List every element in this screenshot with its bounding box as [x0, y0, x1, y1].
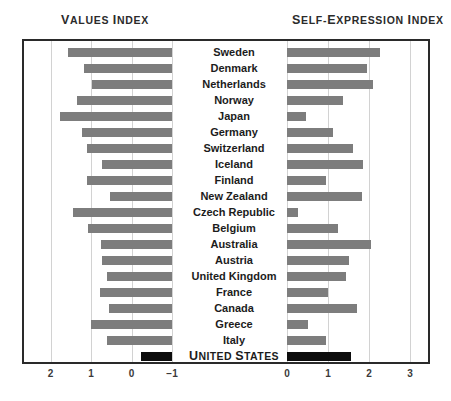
- country-label: Italy: [179, 332, 289, 349]
- chart-row: New Zealand: [24, 188, 428, 205]
- chart-row: Iceland: [24, 156, 428, 173]
- country-label: Iceland: [179, 156, 289, 173]
- bar-values-index: [68, 48, 172, 57]
- bar-values-index-highlight: [141, 352, 172, 361]
- bar-self-expression: [287, 192, 362, 201]
- chart-row: Belgium: [24, 220, 428, 237]
- bar-self-expression: [287, 336, 326, 345]
- country-label: Finland: [179, 172, 289, 189]
- bar-values-index: [91, 320, 172, 329]
- axis-tick-label: 1: [88, 368, 94, 379]
- chart-row: Japan: [24, 108, 428, 125]
- bar-self-expression: [287, 272, 346, 281]
- country-label: Netherlands: [179, 76, 289, 93]
- bar-self-expression: [287, 224, 338, 233]
- axis-tick-label: −1: [166, 368, 177, 379]
- bar-self-expression: [287, 256, 349, 265]
- bar-self-expression: [287, 160, 363, 169]
- country-label: Japan: [179, 108, 289, 125]
- bar-self-expression: [287, 176, 326, 185]
- chart-row: Netherlands: [24, 76, 428, 93]
- chart-row: Greece: [24, 316, 428, 333]
- self-expression-index-header: SELF-EXPRESSION INDEX: [292, 13, 444, 27]
- chart-canvas: VALUES INDEX SELF-EXPRESSION INDEX Swede…: [0, 0, 451, 401]
- country-label: Germany: [179, 124, 289, 141]
- chart-row: Austria: [24, 252, 428, 269]
- country-label: New Zealand: [179, 188, 289, 205]
- country-label: Canada: [179, 300, 289, 317]
- values-index-header: VALUES INDEX: [61, 13, 149, 27]
- bar-values-index: [92, 80, 172, 89]
- axis-tick-label: 2: [48, 368, 54, 379]
- chart-row: Finland: [24, 172, 428, 189]
- country-label: Sweden: [179, 44, 289, 61]
- chart-row: Switzerland: [24, 140, 428, 157]
- bar-self-expression: [287, 288, 328, 297]
- bar-values-index: [73, 208, 172, 217]
- bar-values-index: [107, 336, 172, 345]
- axis-tick-label: 0: [284, 368, 290, 379]
- country-label: Switzerland: [179, 140, 289, 157]
- bar-values-index: [107, 272, 172, 281]
- chart-row: Denmark: [24, 60, 428, 77]
- country-label: Greece: [179, 316, 289, 333]
- country-label: Norway: [179, 92, 289, 109]
- chart-row: Italy: [24, 332, 428, 349]
- axis-tick-label: 1: [325, 368, 331, 379]
- chart-row: Australia: [24, 236, 428, 253]
- bar-self-expression: [287, 96, 343, 105]
- country-label: Belgium: [179, 220, 289, 237]
- country-label: France: [179, 284, 289, 301]
- axis-tick-label: 3: [407, 368, 413, 379]
- bar-self-expression: [287, 80, 373, 89]
- chart-row: Norway: [24, 92, 428, 109]
- bar-values-index: [88, 224, 172, 233]
- plot-frame: SwedenDenmarkNetherlandsNorwayJapanGerma…: [22, 39, 430, 364]
- bar-values-index: [87, 176, 172, 185]
- chart-row: Canada: [24, 300, 428, 317]
- bar-self-expression: [287, 64, 367, 73]
- bar-values-index: [100, 288, 172, 297]
- bar-values-index: [60, 112, 172, 121]
- chart-row: Germany: [24, 124, 428, 141]
- axis-tick-label: 2: [366, 368, 372, 379]
- chart-row: Sweden: [24, 44, 428, 61]
- bar-values-index: [109, 304, 172, 313]
- country-label: Czech Republic: [179, 204, 289, 221]
- bar-self-expression: [287, 304, 357, 313]
- bar-values-index: [82, 128, 172, 137]
- bar-self-expression: [287, 48, 380, 57]
- chart-row: UNITED STATES: [24, 348, 428, 365]
- bar-self-expression: [287, 112, 306, 121]
- chart-row: United Kingdom: [24, 268, 428, 285]
- country-label: Austria: [179, 252, 289, 269]
- axis-tick-label: 0: [129, 368, 135, 379]
- bar-values-index: [102, 256, 172, 265]
- bar-self-expression: [287, 128, 333, 137]
- country-label: United Kingdom: [179, 268, 289, 285]
- bar-values-index: [77, 96, 172, 105]
- bar-self-expression: [287, 240, 371, 249]
- bar-values-index: [110, 192, 172, 201]
- bar-values-index: [87, 144, 172, 153]
- bar-values-index: [84, 64, 172, 73]
- chart-row: Czech Republic: [24, 204, 428, 221]
- bar-values-index: [102, 160, 172, 169]
- plot-area: SwedenDenmarkNetherlandsNorwayJapanGerma…: [24, 41, 428, 362]
- country-label: Denmark: [179, 60, 289, 77]
- bar-self-expression: [287, 320, 308, 329]
- country-label: UNITED STATES: [179, 348, 289, 365]
- chart-row: France: [24, 284, 428, 301]
- bar-self-expression-highlight: [287, 352, 351, 361]
- bar-self-expression: [287, 144, 353, 153]
- bar-values-index: [101, 240, 172, 249]
- country-label: Australia: [179, 236, 289, 253]
